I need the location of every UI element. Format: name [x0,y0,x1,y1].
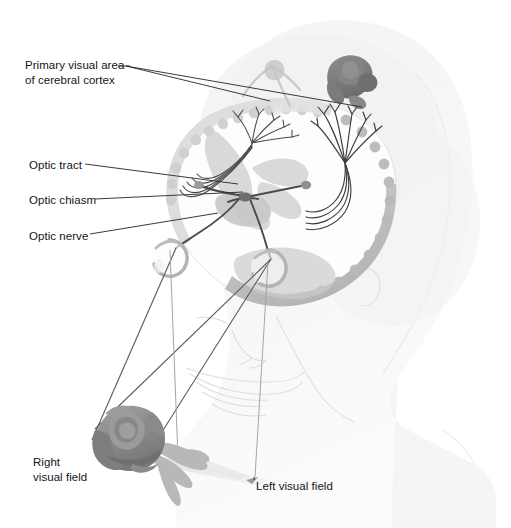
eye-left-anatomical [251,250,286,286]
label-optic-nerve: Optic nerve [29,229,88,244]
lgn-right [301,181,311,189]
cortex-projection-hub [265,60,285,80]
label-optic-chiasm: Optic chiasm [29,193,96,208]
eye-right-anatomical [152,240,187,276]
label-optic-tract: Optic tract [29,158,82,173]
visual-pathway-figure: Primary visual area of cerebral cortex O… [0,0,511,528]
optic-chiasm-node [239,192,252,201]
label-left-visual-field: Left visual field [256,479,333,494]
label-right-visual-field: Right visual field [33,455,87,484]
label-primary-visual-area: Primary visual area of cerebral cortex [25,58,124,87]
field-ray-right [170,250,178,458]
lgn-left [194,181,204,189]
